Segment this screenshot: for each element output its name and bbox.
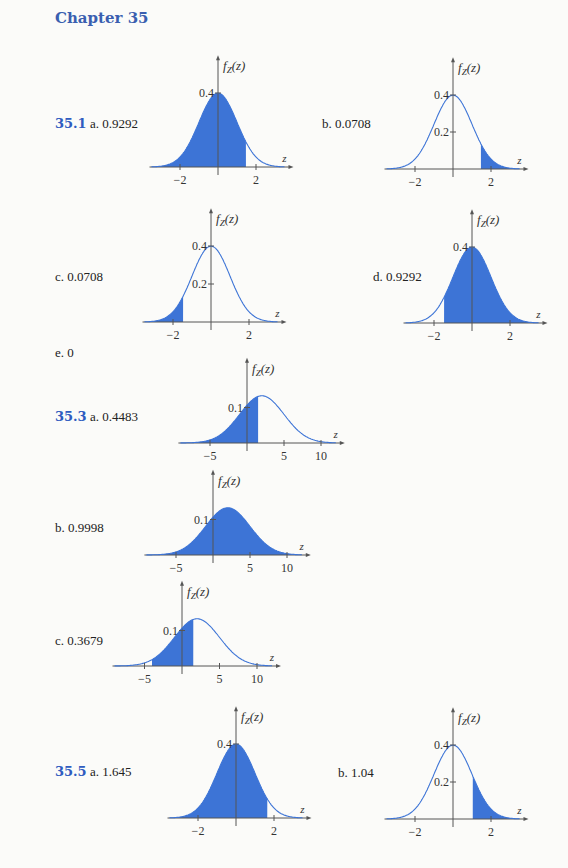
x-tick-label: −2 — [409, 175, 422, 189]
y-tick-label: 0.4 — [199, 86, 214, 100]
y-axis-arrow-icon — [216, 55, 220, 60]
x-tick-label: −2 — [192, 824, 205, 838]
plot-35.5b: −220.20.4fZ(z)z — [385, 707, 529, 839]
y-tick-label: 0.1 — [228, 401, 243, 415]
y-tick-label: 0.1 — [163, 624, 178, 638]
plot-35.3b: −55100.1fZ(z)z — [144, 470, 310, 575]
y-axis-arrow-icon — [209, 208, 213, 213]
y-axis-label: fZ(z) — [458, 60, 480, 77]
x-axis-label: z — [299, 540, 305, 552]
y-axis-arrow-icon — [245, 358, 249, 363]
plot-35.5a: −220.4fZ(z)z — [168, 706, 312, 838]
x-tick-label: 5 — [217, 672, 223, 686]
y-tick-label: 0.4 — [434, 88, 449, 102]
x-tick-label: −5 — [170, 561, 183, 575]
x-tick-label: −5 — [204, 449, 217, 463]
x-tick-label: −2 — [428, 329, 441, 343]
x-tick-label: 5 — [247, 561, 253, 575]
y-axis-label: fZ(z) — [241, 709, 263, 726]
y-tick-label: 0.4 — [192, 239, 207, 253]
x-axis-label: z — [269, 651, 275, 663]
x-tick-label: 2 — [253, 173, 259, 187]
y-tick-label: 0.2 — [192, 277, 207, 291]
x-axis-label: z — [516, 154, 522, 166]
shaded-region — [152, 93, 246, 167]
x-axis-label: z — [274, 307, 280, 319]
y-axis-label: fZ(z) — [187, 584, 209, 601]
x-tick-label: 2 — [246, 328, 252, 342]
x-tick-label: 5 — [281, 449, 287, 463]
x-tick-label: −2 — [174, 173, 187, 187]
x-axis-label: z — [516, 804, 522, 816]
y-axis-arrow-icon — [180, 581, 184, 586]
y-axis-arrow-icon — [470, 209, 474, 214]
x-tick-label: 10 — [251, 672, 263, 686]
x-axis-label: z — [535, 308, 541, 320]
y-axis-label: fZ(z) — [458, 710, 480, 727]
y-axis-arrow-icon — [451, 57, 455, 62]
plot-35.1b: −220.20.4fZ(z)z — [385, 57, 529, 189]
shaded-region — [154, 508, 302, 555]
y-tick-label: 0.2 — [434, 125, 449, 139]
x-tick-label: −5 — [138, 672, 151, 686]
y-tick-label: 0.2 — [434, 775, 449, 789]
x-tick-label: 10 — [315, 449, 327, 463]
y-axis-arrow-icon — [234, 706, 238, 711]
y-axis-arrow-icon — [211, 470, 215, 475]
y-tick-label: 0.4 — [434, 738, 449, 752]
x-tick-label: −2 — [167, 328, 180, 342]
x-axis-arrow-icon — [282, 320, 287, 324]
x-tick-label: 2 — [488, 175, 494, 189]
plot-35.3a: −55100.1fZ(z)z — [178, 358, 344, 463]
x-tick-label: −2 — [409, 825, 422, 839]
x-axis-label: z — [281, 152, 287, 164]
y-axis-label: fZ(z) — [218, 473, 240, 490]
x-axis-arrow-icon — [276, 664, 281, 668]
y-tick-label: 0.4 — [453, 240, 468, 254]
y-axis-label: fZ(z) — [223, 58, 245, 75]
x-axis-arrow-icon — [524, 167, 529, 171]
x-axis-arrow-icon — [289, 165, 294, 169]
x-axis-arrow-icon — [543, 321, 548, 325]
y-tick-label: 0.1 — [194, 513, 209, 527]
density-plots: −220.4fZ(z)z−220.20.4fZ(z)z−220.20.4fZ(z… — [0, 0, 568, 868]
shaded-region — [473, 776, 520, 819]
y-tick-label: 0.4 — [217, 737, 232, 751]
shaded-region — [444, 247, 538, 323]
x-axis-label: z — [333, 428, 339, 440]
x-axis-label: z — [299, 803, 305, 815]
x-axis-arrow-icon — [524, 817, 529, 821]
x-tick-label: 2 — [271, 824, 277, 838]
x-tick-label: 2 — [488, 825, 494, 839]
x-tick-label: 2 — [507, 329, 513, 343]
plot-35.3c: −55100.1fZ(z)z — [113, 581, 282, 686]
y-axis-label: fZ(z) — [477, 212, 499, 229]
y-axis-label: fZ(z) — [252, 361, 274, 378]
x-axis-arrow-icon — [306, 553, 311, 557]
plot-35.1a: −220.4fZ(z)z — [150, 55, 294, 187]
x-axis-arrow-icon — [307, 816, 312, 820]
shaded-region — [170, 744, 268, 818]
plot-35.1c: −220.20.4fZ(z)z — [143, 208, 287, 342]
x-axis-arrow-icon — [340, 441, 345, 445]
y-axis-label: fZ(z) — [216, 211, 238, 228]
x-tick-label: 10 — [281, 561, 293, 575]
plot-35.1d: −220.4fZ(z)z — [404, 209, 548, 343]
y-axis-arrow-icon — [451, 707, 455, 712]
